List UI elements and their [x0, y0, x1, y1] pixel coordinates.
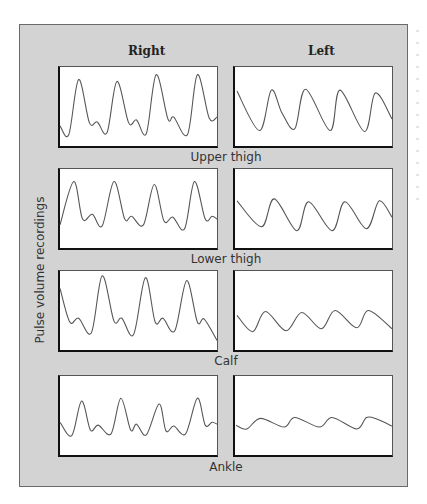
- panel-upper-thigh-right: [58, 66, 218, 148]
- y-axis-label: Pulse volume recordings: [33, 197, 47, 344]
- waveform-lower-thigh-left: [235, 169, 392, 248]
- row-label-ankle: Ankle: [58, 460, 394, 474]
- column-header-right: Right: [128, 44, 165, 58]
- row-label-lower-thigh: Lower thigh: [58, 252, 394, 266]
- waveform-calf-right: [60, 271, 217, 350]
- panel-ankle-left: [233, 375, 393, 457]
- waveform-upper-thigh-left: [235, 67, 392, 146]
- column-header-left: Left: [308, 44, 335, 58]
- waveform-upper-thigh-right: [60, 67, 217, 146]
- panel-upper-thigh-left: [233, 66, 393, 148]
- panel-ankle-right: [58, 375, 218, 457]
- waveform-ankle-right: [60, 376, 217, 455]
- row-label-calf: Calf: [58, 354, 394, 368]
- waveform-lower-thigh-right: [60, 169, 217, 248]
- panel-lower-thigh-left: [233, 168, 393, 250]
- waveform-ankle-left: [235, 376, 392, 455]
- row-label-upper-thigh: Upper thigh: [58, 150, 394, 164]
- waveform-calf-left: [235, 271, 392, 350]
- panel-lower-thigh-right: [58, 168, 218, 250]
- panel-calf-right: [58, 270, 218, 352]
- panel-calf-left: [233, 270, 393, 352]
- scan-edge-artifact: [416, 30, 419, 200]
